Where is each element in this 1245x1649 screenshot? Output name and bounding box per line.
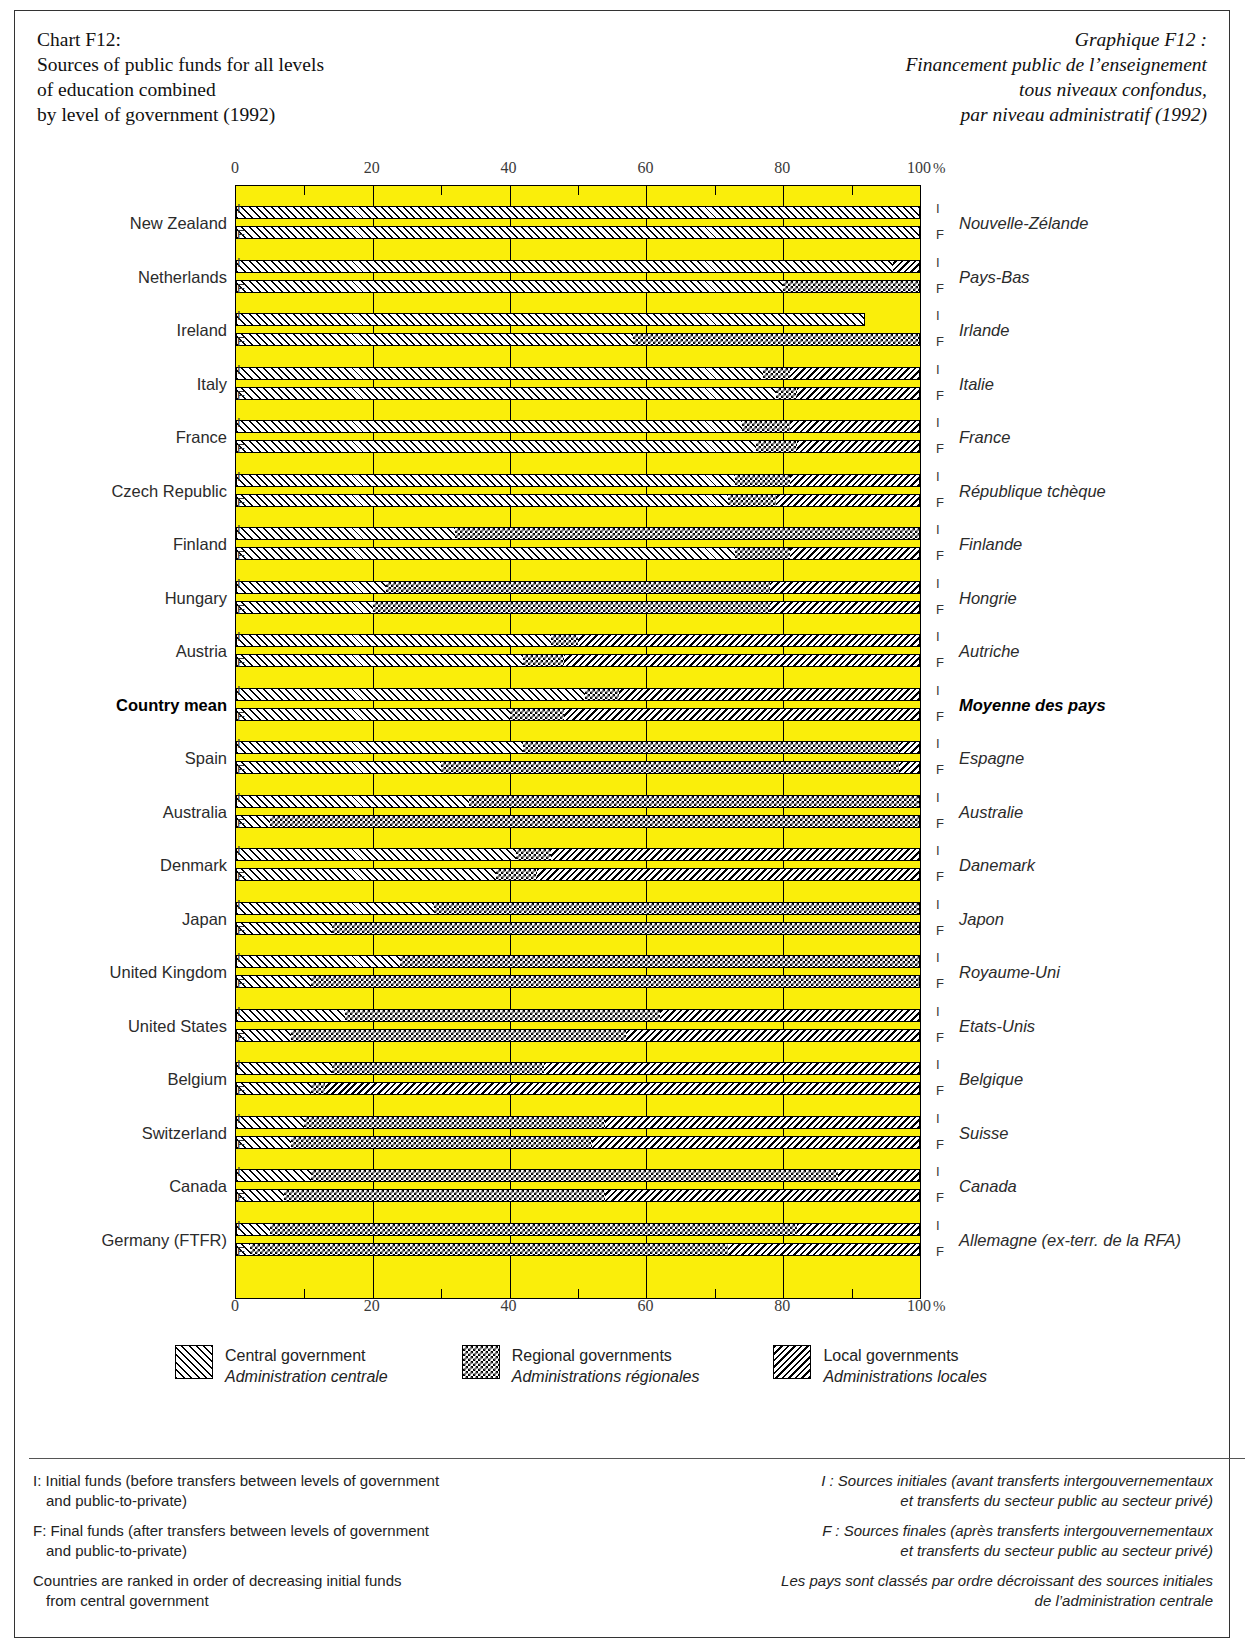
chart-frame: Chart F12: Sources of public funds for a… [14, 10, 1230, 1638]
row-mark-initial: I [237, 362, 241, 377]
country-label-fr: Royaume-Uni [959, 963, 1060, 982]
bar-segment-regional [728, 494, 776, 507]
row-mark-initial: I [237, 522, 241, 537]
row-mark-final: F [936, 1190, 944, 1205]
bar-segment-central [236, 1169, 311, 1182]
row-mark-initial: I [237, 736, 241, 751]
row-mark-final: F [936, 441, 944, 456]
footnotes-fr: I : Sources initiales (avant transferts … [693, 1471, 1213, 1621]
minor-tick-50-top [578, 186, 579, 195]
footnote-fr-line2: de l’administration centrale [693, 1591, 1213, 1611]
row-mark-initial: I [936, 897, 940, 912]
stacked-bar [236, 1243, 920, 1256]
bar-segment-central [236, 708, 510, 721]
row-mark-final: F [237, 1137, 245, 1152]
footnote-fr-block-2: Les pays sont classés par ordre décroiss… [693, 1571, 1213, 1610]
legend-swatch-central [175, 1345, 213, 1379]
bar-segment-regional [783, 280, 920, 293]
bar-segment-central [236, 280, 783, 293]
bar-segment-local [544, 1062, 920, 1075]
row-mark-final: F [936, 495, 944, 510]
row-mark-initial: I [237, 1057, 241, 1072]
legend-label-en: Central government [225, 1345, 388, 1366]
bar-segment-regional [469, 795, 920, 808]
minor-tick-30-top [441, 186, 442, 195]
stacked-bar [236, 226, 920, 239]
row-mark-initial: I [936, 1218, 940, 1233]
row-mark-initial: I [936, 1057, 940, 1072]
bar-segment-regional [523, 741, 899, 754]
stacked-bar [236, 1062, 920, 1075]
footnote-en-line2: and public-to-private) [33, 1491, 553, 1511]
stacked-bar [236, 313, 865, 326]
bar-segment-central [236, 654, 523, 667]
bar-segment-central [236, 1223, 270, 1236]
footnote-en-line1: Countries are ranked in order of decreas… [33, 1571, 553, 1591]
stacked-bar [236, 741, 920, 754]
bar-segment-regional [304, 1116, 605, 1129]
bar-segment-local [325, 1082, 920, 1095]
row-mark-final: F [237, 762, 245, 777]
bar-segment-central [236, 761, 441, 774]
bar-segment-regional [455, 527, 920, 540]
row-mark-final: F [237, 602, 245, 617]
row-mark-final: F [936, 762, 944, 777]
country-label-fr: Suisse [959, 1124, 1009, 1143]
footnote-divider [29, 1458, 1245, 1459]
country-label-fr: Hongrie [959, 589, 1017, 608]
row-mark-initial: I [237, 843, 241, 858]
country-label-fr: Espagne [959, 749, 1024, 768]
row-mark-final: F [936, 1137, 944, 1152]
country-label-en: Canada [27, 1177, 227, 1196]
row-mark-initial: I [237, 201, 241, 216]
stacked-bar [236, 688, 920, 701]
country-label-fr: République tchèque [959, 482, 1106, 501]
bar-segment-local [838, 1169, 920, 1182]
row-mark-final: F [936, 548, 944, 563]
stacked-bar [236, 868, 920, 881]
row-mark-final: F [936, 602, 944, 617]
bar-segment-local [899, 761, 920, 774]
bar-segment-central [236, 634, 551, 647]
bar-segment-local [626, 1029, 920, 1042]
axis-tick-60: 60 [637, 1297, 653, 1315]
bar-segment-central [236, 1009, 345, 1022]
axis-tick-40: 40 [501, 159, 517, 177]
stacked-bar [236, 367, 920, 380]
bar-segment-local [551, 848, 920, 861]
country-label-en: Spain [27, 749, 227, 768]
country-label-en: New Zealand [27, 214, 227, 233]
stacked-bar [236, 474, 920, 487]
legend-item-regional: Regional governmentsAdministrations régi… [462, 1345, 700, 1387]
bar-segment-regional [776, 387, 797, 400]
row-mark-initial: I [936, 736, 940, 751]
row-mark-final: F [237, 1083, 245, 1098]
row-mark-final: F [237, 548, 245, 563]
legend-item-central: Central governmentAdministration central… [175, 1345, 388, 1387]
plot-area: New ZealandNouvelle-ZélandeIFIFNetherlan… [15, 185, 1231, 1297]
stacked-bar [236, 634, 920, 647]
footnote-fr-line2: et transferts du secteur public au secte… [693, 1541, 1213, 1561]
bar-segment-regional [523, 654, 564, 667]
stacked-bar [236, 1189, 920, 1202]
stacked-bar [236, 494, 920, 507]
bar-segment-central [236, 581, 386, 594]
axis-tick-20: 20 [364, 159, 380, 177]
stacked-bar [236, 975, 920, 988]
plot-box [235, 185, 921, 1299]
footnote-fr-line1: F : Sources finales (après transferts in… [693, 1521, 1213, 1541]
row-mark-final: F [237, 869, 245, 884]
row-mark-final: F [936, 709, 944, 724]
bar-segment-central [236, 260, 893, 273]
country-label-en: United Kingdom [27, 963, 227, 982]
bar-segment-regional [400, 955, 920, 968]
country-label-en: Hungary [27, 589, 227, 608]
bar-segment-regional [270, 1223, 797, 1236]
stacked-bar [236, 333, 920, 346]
bar-segment-local [770, 581, 920, 594]
row-mark-final: F [237, 495, 245, 510]
row-mark-initial: I [936, 790, 940, 805]
stacked-bar [236, 601, 920, 614]
bar-segment-central [236, 868, 496, 881]
row-mark-final: F [237, 281, 245, 296]
